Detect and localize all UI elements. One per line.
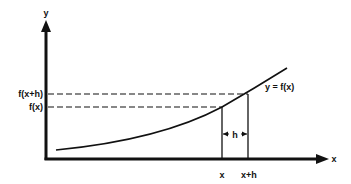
interval-label: h [232,130,238,140]
y-marker-fx: f(x) [29,102,43,112]
x-axis-arrow-icon [316,154,329,164]
x-axis: x [45,154,337,164]
x-marker-xh: x+h [241,170,257,180]
arrow-right-icon [242,132,247,137]
curve-label: y = f(x) [265,82,294,92]
arrow-left-icon [223,132,228,137]
y-axis-label: y [43,8,48,18]
derivative-diagram: y x y = f(x) f(x+h) f(x) h x x+h [0,0,351,184]
interval-h: h [223,130,247,140]
y-axis-arrow-icon [41,20,51,32]
y-marker-fxh: f(x+h) [18,89,43,99]
x-axis-label: x [331,154,336,164]
function-curve [56,68,287,150]
y-axis: y [41,8,51,160]
x-marker-x: x [219,170,224,180]
